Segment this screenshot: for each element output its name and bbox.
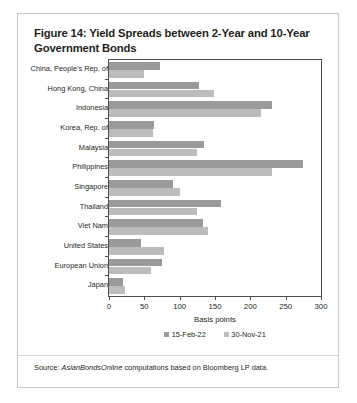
- bar-series1: [109, 200, 221, 208]
- x-axis-tick-marks: [108, 297, 322, 301]
- legend-label: 15-Feb-22: [172, 330, 206, 339]
- category-axis-tick: [105, 275, 108, 276]
- legend-label: 30-Nov-21: [231, 330, 266, 339]
- x-tick-label: 300: [314, 302, 327, 311]
- legend-item: 15-Feb-22: [164, 330, 206, 339]
- plot-area: [108, 59, 322, 297]
- source-note: Source: AsianBondsOnline computations ba…: [34, 363, 326, 373]
- bar-series2: [109, 267, 151, 275]
- bar-series2: [109, 90, 214, 98]
- chart-legend: 15-Feb-2230-Nov-21: [108, 330, 322, 339]
- bar-series1: [109, 121, 154, 129]
- bar-series2: [109, 168, 272, 176]
- category-label: China, People's Rep. of: [18, 65, 108, 73]
- bar-series1: [109, 101, 272, 109]
- bar-series2: [109, 286, 125, 294]
- source-divider: [18, 355, 338, 356]
- category-axis-tick: [105, 256, 108, 257]
- category-axis-tick: [105, 236, 108, 237]
- bar-series2: [109, 149, 197, 157]
- bar-series1: [109, 278, 123, 286]
- bar-series2: [109, 188, 180, 196]
- legend-item: 30-Nov-21: [224, 330, 266, 339]
- bar-series1: [109, 141, 204, 149]
- bar-series1: [109, 82, 199, 90]
- category-label: Indonesia: [18, 104, 108, 112]
- x-tick-label: 200: [244, 302, 257, 311]
- category-axis-tick: [105, 177, 108, 178]
- x-axis-tick-labels: 050100150200250300: [78, 302, 357, 314]
- bar-series1: [109, 62, 160, 70]
- category-label: Singapore: [18, 183, 108, 191]
- category-label: Japan: [18, 281, 108, 289]
- figure-title: Figure 14: Yield Spreads between 2-Year …: [34, 26, 324, 55]
- legend-swatch-icon: [164, 332, 169, 337]
- x-tick-mark: [215, 297, 216, 300]
- category-axis-tick: [105, 98, 108, 99]
- legend-swatch-icon: [224, 332, 229, 337]
- x-tick-label: 100: [173, 302, 186, 311]
- bar-series1: [109, 180, 173, 188]
- bar-series2: [109, 70, 144, 78]
- category-axis-tick: [105, 79, 108, 80]
- category-label: Viet Nam: [18, 222, 108, 230]
- source-rest: computations based on Bloomberg LP data.: [122, 363, 268, 372]
- chart-plot-wrapper: China, People's Rep. ofHong Kong, ChinaI…: [18, 59, 340, 336]
- category-label: Thailand: [18, 203, 108, 211]
- category-label: United States: [18, 242, 108, 250]
- category-label: Hong Kong, China: [18, 85, 108, 93]
- x-tick-mark: [321, 297, 322, 300]
- bar-series1: [109, 160, 303, 168]
- x-axis-title: Basis points: [108, 315, 322, 324]
- category-label: Philippines: [18, 163, 108, 171]
- source-prefix: Source:: [34, 363, 62, 372]
- bar-series2: [109, 247, 164, 255]
- category-axis: China, People's Rep. ofHong Kong, ChinaI…: [18, 59, 108, 297]
- x-tick-label: 150: [208, 302, 221, 311]
- x-tick-mark: [286, 297, 287, 300]
- category-axis-tick: [105, 118, 108, 119]
- x-tick-mark: [250, 297, 251, 300]
- category-axis-tick: [105, 138, 108, 139]
- category-axis-tick: [105, 197, 108, 198]
- bar-series1: [109, 219, 203, 227]
- x-tick-label: 50: [140, 302, 149, 311]
- bar-series2: [109, 109, 261, 117]
- category-axis-tick: [105, 216, 108, 217]
- x-tick-mark: [144, 297, 145, 300]
- category-label: European Union: [18, 262, 108, 270]
- x-tick-label: 0: [107, 302, 111, 311]
- bar-series1: [109, 259, 162, 267]
- bars-layer: [109, 60, 321, 296]
- bar-series2: [109, 129, 153, 137]
- source-publication: AsianBondsOnline: [62, 363, 123, 372]
- bar-series2: [109, 227, 208, 235]
- x-tick-mark: [109, 297, 110, 300]
- category-label: Malaysia: [18, 144, 108, 152]
- x-tick-mark: [180, 297, 181, 300]
- x-tick-label: 250: [279, 302, 292, 311]
- category-axis-tick: [105, 157, 108, 158]
- category-label: Korea, Rep. of: [18, 124, 108, 132]
- figure-card: Figure 14: Yield Spreads between 2-Year …: [17, 13, 339, 388]
- bar-series1: [109, 239, 141, 247]
- bar-series2: [109, 208, 197, 216]
